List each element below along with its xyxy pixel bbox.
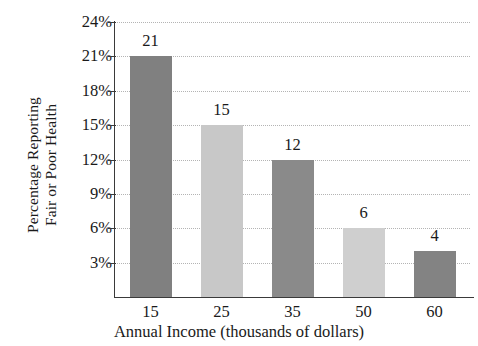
gridline	[115, 22, 470, 23]
plot-area	[115, 22, 470, 297]
y-axis-tick-label: 24%	[50, 12, 112, 32]
y-axis-tick-label: 6%	[50, 218, 112, 238]
y-axis-tick-mark	[108, 194, 116, 195]
bar[interactable]	[201, 125, 243, 297]
x-axis-title: Annual Income (thousands of dollars)	[0, 322, 478, 342]
bar-value-label: 21	[142, 31, 159, 51]
bar-value-label: 4	[430, 226, 438, 246]
y-axis-tick-mark	[108, 160, 116, 161]
y-axis-tick-labels: 3%6%9%12%15%18%21%24%	[50, 0, 112, 346]
y-axis-tick-mark	[108, 22, 116, 23]
x-axis-tick-label: 50	[355, 302, 372, 322]
y-axis-title-line-1: Percentage Reporting	[24, 97, 42, 233]
y-axis-tick-label: 3%	[50, 253, 112, 273]
y-axis-tick-label: 15%	[50, 115, 112, 135]
y-axis-tick-mark	[108, 263, 116, 264]
y-axis-tick-mark	[108, 125, 116, 126]
x-axis-tick-label: 15	[142, 302, 159, 322]
bar[interactable]	[414, 251, 456, 297]
y-axis-tick-label: 21%	[50, 46, 112, 66]
y-axis-tick-label: 18%	[50, 81, 112, 101]
y-axis-tick-label: 12%	[50, 150, 112, 170]
bar[interactable]	[272, 160, 314, 298]
x-axis-tick-label: 25	[213, 302, 230, 322]
bar-value-label: 15	[213, 100, 230, 120]
bar[interactable]	[130, 56, 172, 297]
bar-value-label: 12	[284, 135, 301, 155]
y-axis-tick-mark	[108, 91, 116, 92]
x-axis-tick-label: 35	[284, 302, 301, 322]
bar-value-label: 6	[359, 203, 367, 223]
bar-chart-figure: Percentage Reporting Fair or Poor Health…	[0, 0, 478, 346]
y-axis-tick-mark	[108, 56, 116, 57]
y-axis-tick-label: 9%	[50, 184, 112, 204]
bar[interactable]	[343, 228, 385, 297]
x-axis-tick-label: 60	[426, 302, 443, 322]
x-axis-spine	[114, 297, 474, 298]
y-axis-tick-mark	[108, 228, 116, 229]
